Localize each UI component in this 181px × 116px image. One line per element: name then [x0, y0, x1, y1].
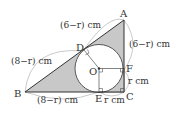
label-B: B [14, 88, 21, 99]
triangle-incircle-diagram: A B C D E F O (6−r) cm (6−r) cm (8−r) cm… [0, 0, 181, 116]
measure-BD: (8−r) cm [11, 56, 52, 66]
label-A: A [119, 8, 128, 19]
measure-FC: r cm [128, 76, 149, 86]
measure-AF: (6−r) cm [129, 39, 170, 49]
measure-AD: (6−r) cm [60, 20, 101, 30]
measure-EC: r cm [104, 95, 125, 105]
label-O: O [89, 66, 97, 77]
label-E: E [95, 93, 102, 104]
measure-BE: (8−r) cm [37, 95, 78, 105]
label-D: D [76, 42, 84, 53]
label-C: C [126, 91, 134, 102]
label-F: F [126, 63, 133, 74]
center-point-O [98, 67, 100, 69]
